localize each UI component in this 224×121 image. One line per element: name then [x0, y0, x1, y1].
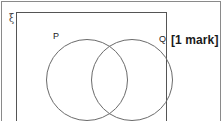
- marks-label: [1 mark]: [171, 33, 219, 47]
- universal-set-box: P Q: [16, 12, 167, 121]
- venn-circle-q: [91, 39, 173, 121]
- universal-set-symbol: ξ: [7, 11, 16, 27]
- set-label-q: Q: [159, 34, 166, 44]
- set-label-p: P: [53, 31, 59, 41]
- question-figure: ξ P Q [1 mark]: [0, 0, 224, 121]
